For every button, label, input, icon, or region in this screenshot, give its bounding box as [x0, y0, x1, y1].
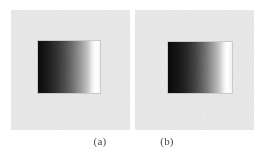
caption-panel-a: (a) [80, 134, 120, 148]
intensity-ramp-patch-a [38, 41, 100, 93]
figure-container: (a) (b) [0, 0, 261, 160]
caption-panel-b: (b) [147, 134, 187, 148]
intensity-ramp-gradient-a [38, 41, 100, 93]
intensity-ramp-gradient-b [168, 42, 232, 93]
panel-a [11, 10, 130, 130]
intensity-ramp-patch-b [168, 42, 232, 93]
panel-b [135, 10, 254, 130]
